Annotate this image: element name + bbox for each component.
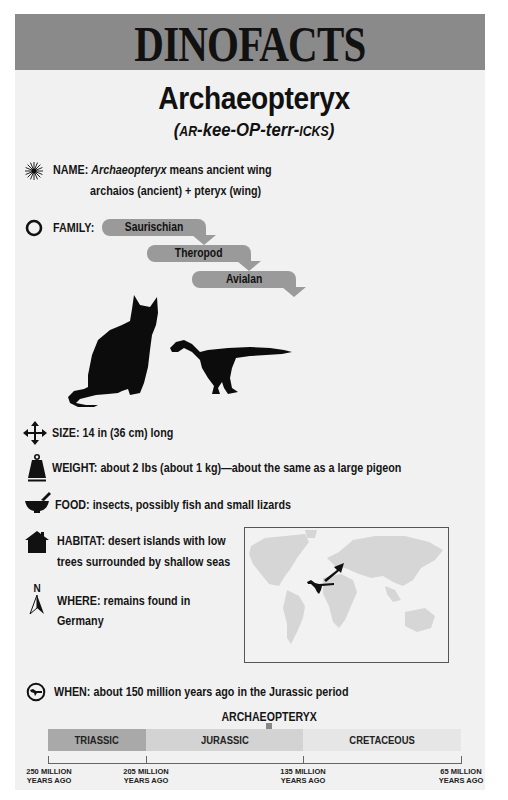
starburst-icon (25, 162, 43, 180)
tick-label-205: 205 MILLIONYEARS AGO (111, 768, 181, 785)
down-right-arrow-icon (270, 279, 310, 299)
timeline-tick (146, 756, 147, 764)
weight-text: about 2 lbs (about 1 kg)—about the same … (97, 461, 401, 475)
north-arrow-icon: N (29, 583, 45, 615)
when-text: about 150 million years ago in the Juras… (90, 685, 348, 699)
ring-icon (25, 219, 43, 237)
timeline-axis (48, 763, 461, 764)
where-fact-line2: Germany (57, 614, 111, 628)
family-level-3-label: Avialan (226, 271, 262, 288)
name-etymology: archaios (ancient) + pteryx (wing) (90, 184, 289, 198)
family-level-2-label: Theropod (175, 245, 223, 262)
period-jurassic-label: JURASSIC (201, 734, 249, 746)
name-etymology-text: archaios (ancient) + pteryx (wing) (90, 184, 261, 198)
habitat-fact: HABITAT: desert islands with low (57, 534, 253, 548)
pron-part-2: -kee-OP-terr- (197, 119, 299, 140)
archaeopteryx-map-icon (307, 580, 335, 594)
food-fact: FOOD: insects, possibly fish and small l… (55, 498, 329, 512)
size-text: 14 in (36 cm) long (79, 426, 173, 440)
where-fact: WHERE: remains found in (57, 594, 212, 608)
pronunciation: (AR-kee-OP-terr-ICKS) (30, 119, 477, 141)
when-fact: WHEN: about 150 million years ago in the… (54, 685, 396, 699)
species-name: Archaeopteryx (30, 80, 477, 117)
weight-icon (28, 454, 46, 482)
svg-text:N: N (33, 583, 40, 594)
world-map-graphic (245, 528, 449, 663)
name-text: means ancient wing (167, 163, 272, 177)
food-label: FOOD: (55, 498, 90, 512)
where-label: WHERE: (57, 594, 101, 608)
tick-label-250: 250 MILLIONYEARS AGO (14, 768, 84, 785)
timeline-title: ARCHAEOPTERYX (0, 710, 508, 724)
where-text: remains found in (101, 594, 191, 608)
family-label: FAMILY: (53, 221, 101, 235)
timeline-tick (461, 756, 462, 764)
habitat-label: HABITAT: (57, 534, 105, 548)
period-jurassic: JURASSIC (146, 729, 303, 751)
pron-close: ) (329, 119, 335, 140)
world-map (244, 527, 449, 663)
period-triassic: TRIASSIC (48, 729, 146, 751)
name-fact: NAME: Archaeopteryx means ancient wing (53, 163, 307, 177)
period-cretaceous-label: CRETACEOUS (349, 734, 415, 746)
weight-label: WEIGHT: (52, 461, 97, 475)
period-cretaceous: CRETACEOUS (303, 729, 461, 751)
habitat-text: desert islands with low (105, 534, 226, 548)
habitat-text-2: trees surrounded by shallow seas (57, 555, 230, 569)
pron-part-1: AR (179, 123, 197, 139)
tick-label-65: 65 MILLIONYEARS AGO (426, 768, 496, 785)
banner-title: DINOFACTS (134, 19, 365, 69)
timeline-tick (303, 756, 304, 764)
tick-label-line: YEARS AGO (426, 777, 496, 786)
timeline-title-text: ARCHAEOPTERYX (221, 710, 316, 724)
down-right-arrow-icon (180, 227, 220, 247)
clock-dino-icon (26, 682, 46, 702)
tick-label-line: YEARS AGO (14, 777, 84, 786)
size-fact: SIZE: 14 in (36 cm) long (52, 426, 193, 440)
name-label: NAME: (53, 163, 88, 177)
tick-label-line: YEARS AGO (268, 777, 338, 786)
mortar-pestle-icon (25, 492, 51, 514)
archaeopteryx-silhouette (170, 338, 292, 396)
habitat-fact-line2: trees surrounded by shallow seas (57, 555, 258, 569)
house-icon (25, 531, 49, 553)
when-label: WHEN: (54, 685, 90, 699)
family-label-text: FAMILY: (53, 221, 94, 235)
food-text: insects, possibly fish and small lizards (90, 498, 291, 512)
pron-part-3: ICKS (299, 123, 328, 139)
family-level-1-label: Saurischian (125, 219, 184, 236)
where-text-2: Germany (57, 614, 104, 628)
weight-fact: WEIGHT: about 2 lbs (about 1 kg)—about t… (52, 461, 458, 475)
tick-label-135: 135 MILLIONYEARS AGO (268, 768, 338, 785)
down-right-arrow-icon (225, 253, 265, 273)
timeline-tick (48, 756, 49, 764)
size-label: SIZE: (52, 426, 79, 440)
arrow-to-germany-icon (323, 562, 345, 582)
cat-silhouette (68, 295, 163, 407)
name-italic: Archaeopteryx (91, 163, 166, 177)
period-triassic-label: TRIASSIC (75, 734, 119, 746)
tick-label-line: YEARS AGO (111, 777, 181, 786)
banner: DINOFACTS (15, 14, 485, 70)
four-way-arrows-icon (23, 421, 47, 445)
